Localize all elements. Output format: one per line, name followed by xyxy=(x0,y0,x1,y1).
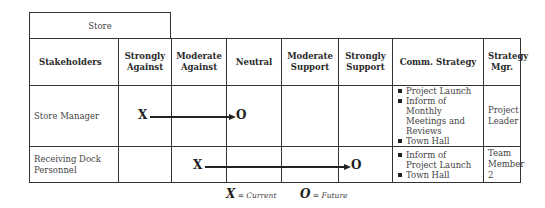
comm-strategy-item: Inform of Monthly Meetings and Reviews xyxy=(397,96,479,136)
movement-arrow-line xyxy=(205,166,345,168)
header-strategy-mgr: Strategy Mgr. xyxy=(484,39,521,86)
comm-strategy-item: Project Launch xyxy=(397,86,479,96)
header-strongly-against: Strongly Against xyxy=(119,39,172,86)
header-stakeholders: Stakeholders xyxy=(30,39,119,86)
comm-strategy-item: Town Hall xyxy=(397,170,479,180)
header-row: Stakeholders Strongly Against Moderate A… xyxy=(30,39,521,86)
comm-strategy-list: Inform of Project Launch Town Hall xyxy=(397,150,479,180)
header-neutral: Neutral xyxy=(227,39,282,86)
future-position-marker: O xyxy=(351,158,361,172)
current-position-marker: X xyxy=(138,108,147,122)
legend-future-symbol: O xyxy=(300,187,310,201)
header-moderate-against: Moderate Against xyxy=(172,39,227,86)
header-moderate-support: Moderate Support xyxy=(282,39,339,86)
comm-strategy-item: Inform of Project Launch xyxy=(397,150,479,170)
strategy-mgr: Team Member 2 xyxy=(484,147,521,183)
current-position-marker: X xyxy=(193,158,202,172)
comm-strategy-list: Project Launch Inform of Monthly Meeting… xyxy=(397,86,479,146)
cell-strongly-against xyxy=(119,147,172,183)
table-row: Store Manager Project Launch Inform of M… xyxy=(30,86,521,147)
comm-strategy-cell: Inform of Project Launch Town Hall xyxy=(393,147,484,183)
comm-strategy-item: Town Hall xyxy=(397,136,479,146)
table-row: Receiving Dock Personnel Inform of Proje… xyxy=(30,147,521,183)
legend-current: X = Current xyxy=(226,187,276,201)
future-position-marker: O xyxy=(236,108,246,122)
stakeholder-name: Store Manager xyxy=(30,86,119,147)
cell-moderate-support xyxy=(282,86,339,147)
comm-strategy-cell: Project Launch Inform of Monthly Meeting… xyxy=(393,86,484,147)
legend-future-label: = Future xyxy=(313,191,348,200)
legend-current-label: = Current xyxy=(238,191,277,200)
stakeholder-name: Receiving Dock Personnel xyxy=(30,147,119,183)
cell-neutral xyxy=(227,147,282,183)
cell-strongly-support xyxy=(339,86,393,147)
cell-moderate-support xyxy=(282,147,339,183)
arrow-head-icon xyxy=(344,164,351,170)
legend-current-symbol: X xyxy=(226,187,235,201)
strategy-mgr: Project Leader xyxy=(484,86,521,147)
stakeholder-analysis-table: Stakeholders Strongly Against Moderate A… xyxy=(29,38,521,183)
movement-arrow-line xyxy=(150,116,230,118)
store-title-box: Store xyxy=(29,12,171,38)
arrow-head-icon xyxy=(229,114,236,120)
header-strongly-support: Strongly Support xyxy=(339,39,393,86)
legend-future: O = Future xyxy=(300,187,347,201)
header-comm-strategy: Comm. Strategy xyxy=(393,39,484,86)
